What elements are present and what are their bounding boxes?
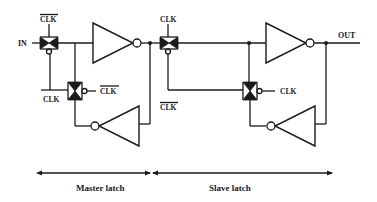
master-latch-label: Master latch	[76, 183, 125, 193]
master-feedback-inverter	[91, 106, 139, 146]
tg3-clk-label: CLK	[160, 15, 176, 24]
slave-input-transmission-gate	[160, 30, 178, 54]
master-latch-span-arrow	[36, 171, 151, 176]
slave-latch-span-arrow	[152, 171, 333, 176]
input-label: IN	[18, 39, 27, 48]
tg1-clk-bar-label: CLK	[40, 15, 56, 24]
master-input-transmission-gate	[40, 30, 58, 54]
slave-feedback-transmission-gate	[243, 82, 262, 100]
master-forward-inverter	[93, 23, 141, 63]
tg2-clk-label: CLK	[43, 95, 59, 104]
slave-feedback-inverter	[267, 106, 315, 146]
master-feedback-transmission-gate	[68, 82, 87, 100]
circuit-diagram: IN CLK CLK CLK	[0, 0, 377, 202]
slave-latch-label: Slave latch	[209, 183, 251, 193]
tg3-clk-bar-label: CLK	[160, 103, 176, 112]
slave-forward-inverter	[266, 23, 314, 63]
tg2-clk-bar-label: CLK	[100, 87, 116, 96]
output-label: OUT	[338, 31, 356, 40]
tg4-clk-label: CLK	[280, 87, 296, 96]
